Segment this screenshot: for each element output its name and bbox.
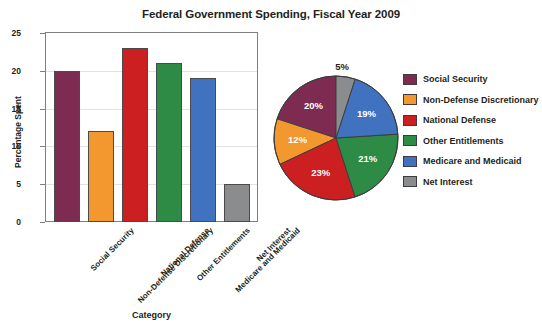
bar-national-defense[interactable] [122, 48, 148, 222]
y-tick-mark [40, 184, 45, 185]
legend-swatch-icon [403, 74, 417, 85]
y-tick-mark [40, 146, 45, 147]
legend-item-other-entitlements[interactable]: Other Entitlements [403, 131, 541, 152]
legend-label: Non-Defense Discretionary [423, 95, 539, 105]
page-title: Federal Government Spending, Fiscal Year… [0, 8, 542, 20]
legend-item-non-defense-discretionary[interactable]: Non-Defense Discretionary [403, 90, 541, 111]
pie-svg: 19% 21% 23% 12% 20% [272, 74, 400, 202]
bar-non-defense-discretionary[interactable] [88, 131, 114, 222]
y-tick-mark [40, 222, 45, 223]
legend-swatch-icon [403, 176, 417, 187]
y-tick-label: 0 [0, 217, 21, 227]
legend-label: National Defense [423, 115, 496, 125]
y-tick-label: 25 [0, 28, 21, 38]
y-tick-mark [40, 109, 45, 110]
legend-swatch-icon [403, 135, 417, 146]
legend-label: Net Interest [423, 177, 473, 187]
legend-item-net-interest[interactable]: Net Interest [403, 172, 541, 193]
pie-label-other-entitlements: 21% [358, 153, 378, 164]
legend-item-social-security[interactable]: Social Security [403, 69, 541, 90]
x-tick-social-security: Social Security [89, 226, 136, 273]
legend: Social Security Non-Defense Discretionar… [403, 69, 541, 192]
legend-label: Social Security [423, 74, 488, 84]
pie-label-social-security: 20% [304, 100, 324, 111]
bar-medicare-and-medicaid[interactable] [190, 78, 216, 222]
bar-chart: 25 20 15 10 5 0 Percentage Spent Social … [0, 26, 270, 323]
bar-series [46, 33, 257, 222]
y-tick-mark [40, 71, 45, 72]
pie-label-net-interest: 5% [335, 61, 349, 72]
y-axis-label: Percentage Spent [13, 57, 23, 207]
legend-swatch-icon [403, 156, 417, 167]
pie-label-national-defense: 23% [311, 167, 331, 178]
legend-swatch-icon [403, 94, 417, 105]
figure-container: Federal Government Spending, Fiscal Year… [0, 0, 542, 323]
bar-other-entitlements[interactable] [156, 63, 182, 222]
legend-swatch-icon [403, 115, 417, 126]
pie-chart: 19% 21% 23% 12% 20% 5% [272, 74, 400, 202]
bar-net-interest[interactable] [224, 184, 250, 222]
pie-label-non-defense-discretionary: 12% [288, 134, 308, 145]
legend-label: Medicare and Medicaid [423, 156, 522, 166]
legend-label: Other Entitlements [423, 136, 504, 146]
x-axis-label: Category [45, 310, 258, 320]
pie-label-medicare-and-medicaid: 19% [357, 108, 377, 119]
legend-item-national-defense[interactable]: National Defense [403, 110, 541, 131]
bar-social-security[interactable] [54, 71, 80, 222]
y-tick-mark [40, 33, 45, 34]
pie-outside-label-svg: 5% [312, 56, 372, 76]
legend-item-medicare-and-medicaid[interactable]: Medicare and Medicaid [403, 151, 541, 172]
